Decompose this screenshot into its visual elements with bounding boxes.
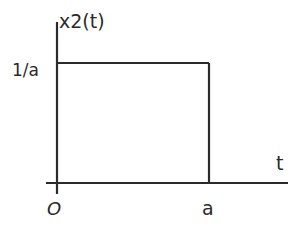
- function-label: x2(t): [59, 10, 105, 32]
- signal-diagram: x2(t) 1/a t O a: [0, 0, 299, 235]
- x-axis-label: t: [276, 152, 283, 174]
- origin-label: O: [47, 198, 61, 219]
- y-level-label: 1/a: [12, 60, 39, 80]
- x-end-label: a: [202, 197, 214, 219]
